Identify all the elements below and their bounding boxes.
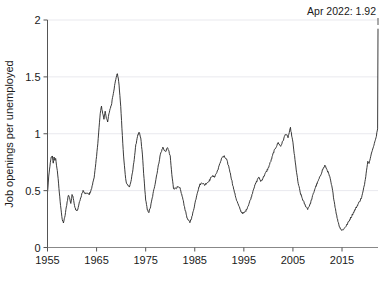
y-tick-label-1.5: 1.5 [25, 71, 40, 83]
y-tick-label-1: 1 [34, 128, 40, 140]
chart-container: 00.511.52 1955196519751985199520052015 A… [0, 0, 385, 284]
x-tick-label-1955: 1955 [35, 254, 59, 266]
y-tick-label-2: 2 [34, 14, 40, 26]
x-tick-label-1975: 1975 [133, 254, 157, 266]
chart-background [0, 0, 385, 284]
x-tick-label-1995: 1995 [232, 254, 256, 266]
job-openings-per-unemployed-line-chart: 00.511.52 1955196519751985199520052015 A… [0, 0, 385, 284]
x-tick-label-2005: 2005 [281, 254, 305, 266]
y-axis-title: Job openings per unemployed [3, 60, 15, 207]
x-tick-label-1985: 1985 [183, 254, 207, 266]
x-tick-label-1965: 1965 [84, 254, 108, 266]
y-tick-label-0.5: 0.5 [25, 185, 40, 197]
x-tick-label-2015: 2015 [330, 254, 354, 266]
latest-value-annotation-label: Apr 2022: 1.92 [307, 5, 376, 17]
y-tick-label-0: 0 [34, 242, 40, 254]
